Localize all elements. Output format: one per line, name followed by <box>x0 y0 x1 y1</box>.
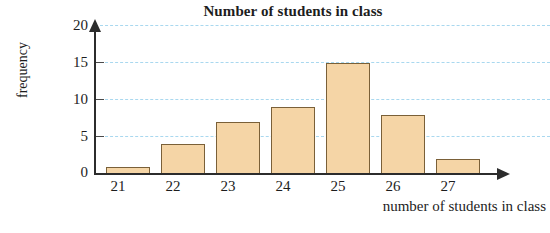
histogram-chart: Number of students in class 20 15 10 5 0… <box>0 0 550 233</box>
y-axis-arrow-icon <box>89 19 101 32</box>
y-tick-label-0: 0 <box>58 164 88 181</box>
x-axis-line <box>94 173 498 175</box>
y-tick-label-20: 20 <box>58 17 88 34</box>
x-axis-title: number of students in class <box>0 198 546 215</box>
bar-25 <box>326 63 370 174</box>
x-tick-label-22: 22 <box>145 178 201 195</box>
y-tick-label-15: 15 <box>58 54 88 71</box>
y-tick-mark-5 <box>96 136 104 137</box>
y-tick-mark-10 <box>96 99 104 100</box>
y-axis-title: frequency <box>15 25 31 115</box>
x-tick-label-24: 24 <box>255 178 311 195</box>
x-tick-label-26: 26 <box>365 178 421 195</box>
bar-24 <box>271 107 315 174</box>
y-tick-label-10: 10 <box>58 91 88 108</box>
x-tick-label-21: 21 <box>90 178 146 195</box>
bar-27 <box>436 159 480 174</box>
bar-23 <box>216 122 260 174</box>
bar-26 <box>381 115 425 174</box>
y-tick-label-5: 5 <box>58 128 88 145</box>
y-axis-line <box>94 29 96 175</box>
x-tick-label-25: 25 <box>310 178 366 195</box>
bars-layer <box>96 25 500 174</box>
x-tick-label-27: 27 <box>420 178 476 195</box>
y-tick-mark-15 <box>96 62 104 63</box>
x-axis-arrow-icon <box>497 168 510 180</box>
x-tick-label-23: 23 <box>200 178 256 195</box>
bar-22 <box>161 144 205 174</box>
